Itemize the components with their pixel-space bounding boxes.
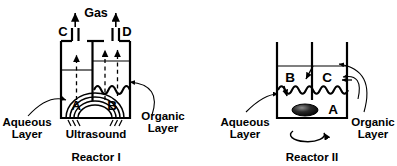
- reactor-one-group: [28, 13, 154, 126]
- reactor-two-stir-bead: [292, 104, 318, 116]
- reactor-one-aqueous-label-line1: Aqueous: [2, 116, 51, 128]
- reactor-one-species-b-label: B: [107, 98, 117, 113]
- reactor-two-organic-pointers: [339, 64, 367, 112]
- reactor-one-aqueous-label-line2: Layer: [12, 128, 43, 140]
- figure-canvas: Gas C D A B Ultrasound Aqueous Layer Org…: [0, 0, 397, 166]
- reactor-one-ultrasound-ticks: [68, 120, 122, 126]
- reactor-one-caption: Reactor I: [71, 151, 120, 163]
- reactor-two-species-b-label: B: [285, 70, 295, 85]
- reactor-one-species-a-label: A: [71, 98, 81, 113]
- reactor-one-port-c-label: C: [58, 24, 68, 39]
- reactor-two-aqueous-pointer: [246, 94, 278, 112]
- reactor-comparison-diagram: Gas C D A B Ultrasound Aqueous Layer Org…: [0, 0, 397, 166]
- reactor-one-port-c-tube: [72, 28, 79, 41]
- reactor-one-gas-label: Gas: [84, 6, 108, 20]
- reactor-two-species-c-label: C: [322, 70, 332, 85]
- reactor-two-aqueous-label-line1: Aqueous: [220, 116, 269, 128]
- reactor-two-organic-label-line2: Layer: [358, 128, 389, 140]
- reactor-two-aqueous-label-line2: Layer: [230, 128, 261, 140]
- reactor-two-caption: Reactor II: [286, 151, 338, 163]
- reactor-one-port-d-label: D: [122, 24, 131, 39]
- reactor-one-ultrasound-label: Ultrasound: [66, 128, 127, 140]
- reactor-two-species-a-label: A: [328, 102, 338, 117]
- reactor-one-organic-label-line2: Layer: [148, 122, 179, 134]
- reactor-one-port-d-tube: [113, 28, 120, 41]
- reactor-two-organic-label-line1: Organic: [351, 116, 395, 128]
- reactor-one-liquid-surface-lines: [61, 61, 130, 70]
- reactor-two-rotation-arrow: [290, 131, 324, 142]
- reactor-one-organic-label-line1: Organic: [141, 110, 185, 122]
